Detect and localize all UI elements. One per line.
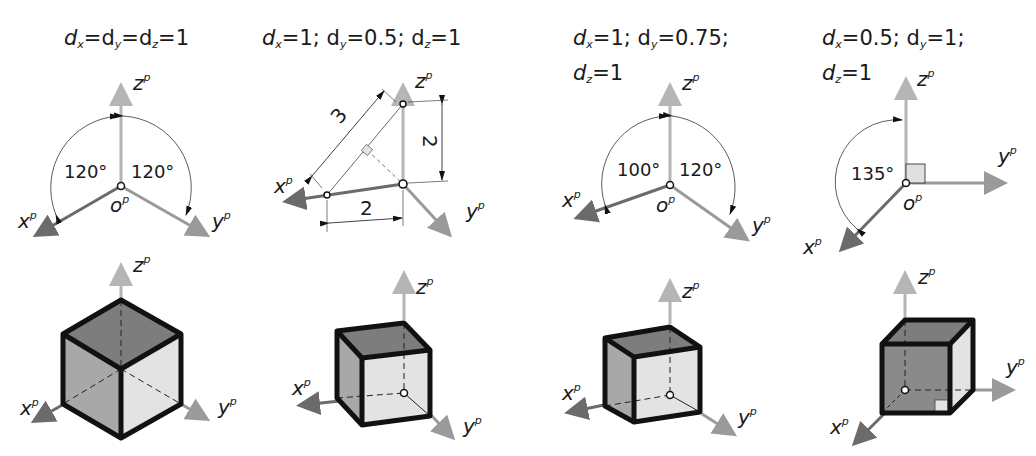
z-point	[400, 101, 406, 107]
angle-label-right: 120°	[679, 159, 722, 180]
panel-2-axes: 3 2 2 zp xp yp	[273, 69, 485, 233]
z-axis-label: zp	[916, 67, 935, 91]
y-axis-arrow	[670, 185, 745, 238]
origin-label: op	[110, 193, 129, 217]
origin-point	[667, 182, 674, 189]
x-axis-arrow	[288, 184, 403, 201]
dimension-3-line	[312, 91, 384, 176]
cube-dimetric: zp xp yp	[291, 275, 482, 438]
z-axis-label: zp	[414, 69, 433, 93]
angle-label-left: 120°	[64, 161, 107, 182]
angle-label: 135°	[851, 163, 894, 184]
origin-point	[903, 180, 910, 187]
y-axis-label: yp	[1005, 355, 1025, 379]
dimension-label-2-vertical: 2	[418, 135, 442, 148]
y-axis-label: yp	[465, 199, 485, 223]
y-axis-arrow	[121, 186, 205, 234]
cube-isometric: zp xp yp	[19, 253, 237, 438]
panel-4-axes: zp xp yp op 135°	[802, 67, 1017, 259]
dimension-label-3: 3	[325, 103, 352, 128]
y-axis-label: yp	[211, 209, 231, 233]
perpendicular-dashed	[367, 150, 403, 184]
x-axis-arrow	[843, 183, 906, 248]
dimension-label-2-horizontal: 2	[360, 196, 373, 220]
x-axis-label: xp	[291, 376, 311, 400]
origin-point	[118, 183, 125, 190]
angle-label-left: 100°	[617, 159, 660, 180]
x-axis-arrow	[38, 186, 121, 234]
z-axis-label: zp	[415, 275, 434, 299]
y-axis-label: yp	[751, 213, 771, 237]
cube-trimetric: zp xp yp	[561, 279, 757, 433]
x-axis-label: xp	[802, 235, 822, 259]
x-axis-label: xp	[561, 381, 581, 405]
y-axis-label: yp	[462, 414, 482, 438]
x-axis-label: xp	[829, 415, 849, 439]
y-axis-label: yp	[737, 405, 757, 429]
y-axis-arrow	[403, 184, 448, 233]
cube-cabinet-oblique: zp yp xp	[829, 265, 1025, 442]
x-axis-label: xp	[273, 174, 293, 198]
x-axis-label: xp	[561, 188, 581, 212]
x-point	[324, 192, 330, 198]
origin-label: op	[656, 193, 675, 217]
panel-3-axes: zp xp yp op 100° 120°	[561, 71, 771, 238]
z-axis-label: zp	[132, 71, 151, 95]
z-axis-label: zp	[132, 253, 151, 277]
z-axis-label: zp	[681, 71, 700, 95]
z-axis-label: zp	[681, 279, 700, 303]
panel-1-axes: zp xp yp op 120° 120°	[17, 71, 231, 234]
right-angle-marker	[361, 144, 372, 155]
y-axis-label: yp	[997, 144, 1017, 168]
angle-label-right: 120°	[131, 161, 174, 182]
y-axis-label: yp	[217, 395, 237, 419]
z-axis-label: zp	[917, 265, 936, 289]
axonometry-diagram: zp xp yp op 120° 120° 3 2 2 zp xp yp	[0, 0, 1036, 456]
x-axis-label: xp	[19, 396, 39, 420]
x-axis-label: xp	[17, 209, 37, 233]
origin-point	[399, 180, 407, 188]
origin-label: op	[903, 191, 922, 215]
